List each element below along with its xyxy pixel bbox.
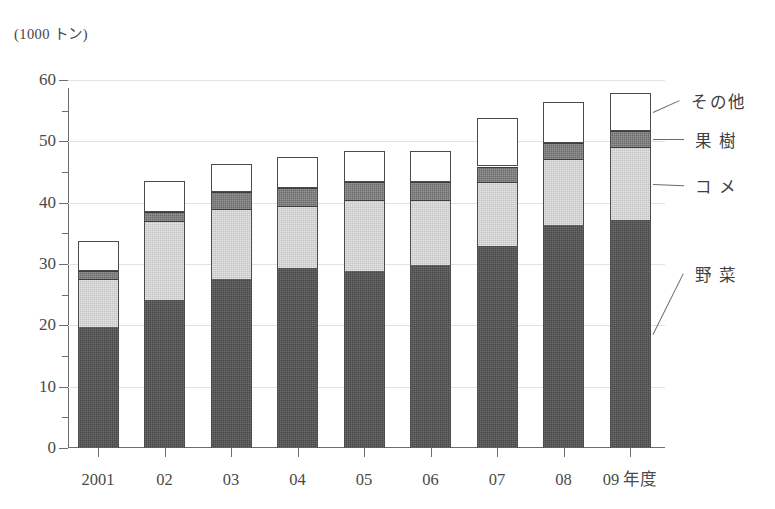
bar-segment-コメ — [277, 206, 318, 269]
x-axis-label: 02 — [156, 470, 173, 490]
bar-segment-果樹 — [344, 182, 385, 199]
y-tick-minor — [62, 233, 68, 234]
x-tick — [298, 448, 299, 457]
stacked-bar-chart: (1000 トン) 010203040506020010203040506070… — [0, 0, 775, 509]
y-tick-minor — [62, 356, 68, 357]
bar-segment-野菜 — [144, 300, 185, 448]
bar-segment-その他 — [78, 241, 119, 271]
legend-label-コメ: コ メ — [695, 174, 738, 198]
y-tick-major — [59, 141, 68, 142]
y-tick-minor — [62, 111, 68, 112]
y-tick-major — [59, 325, 68, 326]
y-tick-minor — [62, 417, 68, 418]
x-tick — [364, 448, 365, 457]
x-tick — [564, 448, 565, 457]
y-tick-major — [59, 448, 68, 449]
x-tick — [98, 448, 99, 457]
bar-segment-野菜 — [610, 220, 651, 448]
bar-segment-野菜 — [277, 268, 318, 448]
x-tick — [165, 448, 166, 457]
y-axis-label: 30 — [39, 254, 56, 274]
bar-segment-その他 — [211, 164, 252, 192]
bar-segment-コメ — [211, 209, 252, 279]
bar-segment-コメ — [477, 182, 518, 245]
bar-segment-果樹 — [410, 182, 451, 200]
y-tick-major — [59, 80, 68, 81]
bar-segment-野菜 — [543, 225, 584, 448]
y-axis-label: 60 — [39, 70, 56, 90]
legend-label-その他: その他 — [691, 89, 747, 113]
y-axis-label: 0 — [48, 438, 57, 458]
bar-segment-コメ — [610, 147, 651, 221]
plot-area: 010203040506020010203040506070809 年度 — [68, 80, 665, 448]
bar-segment-コメ — [543, 159, 584, 225]
bar-segment-その他 — [610, 93, 651, 131]
bar-segment-野菜 — [344, 271, 385, 448]
bar-segment-その他 — [410, 151, 451, 182]
x-axis-label: 09 年度 — [603, 466, 658, 490]
bar-segment-コメ — [78, 279, 119, 327]
y-axis-label: 10 — [39, 377, 56, 397]
bar-segment-コメ — [144, 221, 185, 300]
x-axis-label: 03 — [223, 470, 240, 490]
bar-segment-その他 — [344, 151, 385, 182]
legend-label-果樹: 果 樹 — [695, 128, 738, 152]
x-tick — [497, 448, 498, 457]
gridline — [68, 80, 665, 81]
plot-inner: 010203040506020010203040506070809 年度 — [68, 80, 665, 448]
bar-segment-果樹 — [211, 192, 252, 209]
bar-segment-その他 — [543, 102, 584, 142]
bar-segment-果樹 — [477, 167, 518, 183]
legend-leader-line — [652, 139, 683, 140]
y-axis-unit-label: (1000 トン) — [14, 22, 88, 43]
x-axis-label: 2001 — [82, 470, 115, 490]
bar-segment-果樹 — [543, 143, 584, 159]
bar-segment-その他 — [144, 181, 185, 212]
bar-segment-その他 — [277, 157, 318, 188]
x-axis-label: 07 — [489, 470, 506, 490]
y-tick-major — [59, 264, 68, 265]
bar-segment-野菜 — [78, 327, 119, 448]
x-axis-label: 05 — [356, 470, 373, 490]
y-tick-minor — [62, 172, 68, 173]
y-tick-major — [59, 203, 68, 204]
y-axis-label: 40 — [39, 193, 56, 213]
y-axis-label: 20 — [39, 315, 56, 335]
bar-segment-コメ — [410, 200, 451, 266]
x-axis-label: 04 — [289, 470, 306, 490]
bar-segment-野菜 — [410, 265, 451, 448]
x-tick — [630, 448, 631, 457]
y-tick-minor — [62, 295, 68, 296]
bar-segment-果樹 — [78, 271, 119, 280]
legend-label-野菜: 野 菜 — [695, 262, 738, 286]
y-tick-major — [59, 387, 68, 388]
bar-segment-果樹 — [610, 131, 651, 147]
bar-segment-果樹 — [144, 212, 185, 221]
bar-segment-野菜 — [477, 246, 518, 448]
x-axis-label: 08 — [555, 470, 572, 490]
bar-segment-果樹 — [277, 188, 318, 206]
bar-segment-野菜 — [211, 279, 252, 448]
bar-segment-コメ — [344, 200, 385, 272]
x-tick — [431, 448, 432, 457]
bar-segment-その他 — [477, 118, 518, 166]
y-axis-label: 50 — [39, 131, 56, 151]
x-tick — [231, 448, 232, 457]
x-axis-label: 06 — [422, 470, 439, 490]
